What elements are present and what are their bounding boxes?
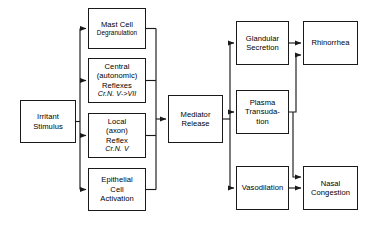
node-line: Central [105,62,130,71]
node-line-cranial-nerve: Cr.N. V->VII [98,90,137,99]
node-rhinorrhea: Rhinorrhea [303,21,358,65]
node-line: Reflex [106,136,128,145]
node-line: Activation [100,194,133,203]
node-line: Epithelial [101,175,132,184]
node-line: Secretion [246,43,279,52]
node-line: Nasal [321,179,341,188]
node-line: Congestion [311,188,350,197]
node-plasma-transudation: Plasma Transuda- tion [236,90,289,134]
node-line: tion [256,117,268,126]
node-glandular-secretion: Glandular Secretion [236,21,289,65]
node-line: Rhinorrhea [311,38,349,47]
node-line: Vasodilation [242,183,283,192]
flowchart-canvas: Irritant Stimulus Mast Cell Degranulatio… [0,0,366,230]
node-line: Mast Cell [101,20,133,29]
node-line: Transuda- [245,107,280,116]
node-central-autonomic-reflexes: Central (autonomic) Reflexes Cr.N. V->VI… [88,58,146,103]
node-line: Reflexes [102,81,132,90]
node-local-axon-reflex: Local (axon) Reflex Cr.N. V [88,113,146,158]
node-line: Glandular [246,34,279,43]
node-irritant-stimulus: Irritant Stimulus [20,100,76,143]
node-line-cranial-nerve: Cr.N. V [105,145,128,154]
node-line: (autonomic) [97,71,138,80]
node-line: Release [181,119,209,128]
node-line: Irritant [37,112,59,121]
node-line: Local [108,117,126,126]
edge-plasma-transudation-to-nasal-congestion [293,112,301,177]
node-epithelial-cell-activation: Epithelial Cell Activation [88,168,146,211]
node-nasal-congestion: Nasal Congestion [303,166,358,210]
node-mediator-release: Mediator Release [168,95,223,143]
node-line: Plasma [250,98,276,107]
node-line: Stimulus [33,122,63,131]
node-vasodilation: Vasodilation [236,166,289,210]
node-line: Degranulation [97,29,137,38]
node-mast-cell-degranulation: Mast Cell Degranulation [88,8,146,49]
node-line: Cell [110,185,123,194]
node-line: (axon) [106,126,128,135]
node-line: Mediator [181,110,211,119]
edge-plasma-transudation-to-rhinorrhea [289,55,301,112]
